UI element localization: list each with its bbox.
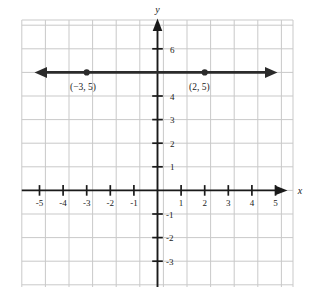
x-tick-label: -1 [130,198,138,208]
x-tick-label: 3 [226,198,231,208]
y-axis-tick-labels: 6 4 3 2 1 -1 -2 -3 [166,45,175,268]
line-right-arrow-icon [265,67,278,78]
x-tick-label: -5 [36,198,44,208]
x-tick-label: 1 [179,198,184,208]
y-tick-label: -3 [166,257,174,267]
data-point-marker [84,69,90,75]
y-tick-label: 6 [170,45,175,55]
x-tick-label: 5 [273,198,278,208]
y-axis [153,19,163,288]
x-tick-label: -4 [59,198,67,208]
x-axis-name-label: x [297,185,303,196]
x-axis [22,186,288,196]
x-tick-label: -2 [107,198,115,208]
x-tick-label: 4 [250,198,255,208]
y-tick-label: -1 [166,210,174,220]
y-tick-label: 3 [170,115,175,125]
y-tick-label: 1 [170,162,175,172]
point-label-b: (2, 5) [189,82,210,93]
y-tick-label: 4 [170,92,175,102]
line-left-arrow-icon [35,67,48,78]
x-tick-label: 2 [202,198,207,208]
x-tick-label: -3 [83,198,91,208]
point-label-a: (−3, 5) [70,82,96,93]
data-point-marker [202,69,208,75]
graph-canvas: -5 -4 -3 -2 -1 1 2 3 4 5 6 4 3 2 1 -1 -2… [0,0,320,305]
coordinate-plane-figure: -5 -4 -3 -2 -1 1 2 3 4 5 6 4 3 2 1 -1 -2… [0,0,320,305]
y-axis-name-label: y [154,4,160,15]
line-y-equals-5 [35,67,278,78]
y-tick-label: 2 [170,139,175,149]
y-tick-label: -2 [166,233,174,243]
